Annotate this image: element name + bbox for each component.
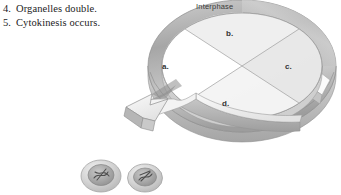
quadrant-label-d: d. [222,99,229,108]
quadrant-label-c: c. [285,62,292,71]
ring-label-interphase: Interphase [196,2,233,11]
quadrant-label-a: a. [162,62,169,71]
daughter-cell-right [128,164,163,192]
cell-cycle-diagram: Interphase a. b. c. d. [0,0,341,195]
quadrant-label-b: b. [226,29,233,38]
figure-canvas: 4. Organelles double. 5. Cytokinesis occ… [0,0,341,195]
daughter-cell-left [81,160,121,192]
cycle-disc [162,13,322,127]
diagram-svg [0,0,341,195]
